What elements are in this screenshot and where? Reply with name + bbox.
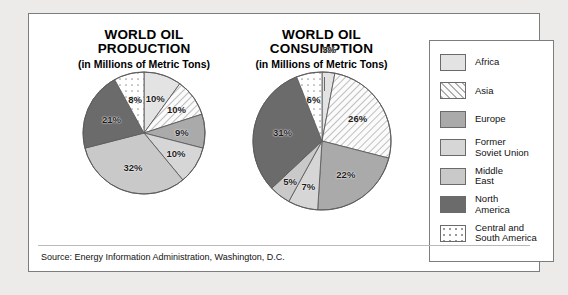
- legend-item-middle-east[interactable]: Middle East: [440, 162, 553, 191]
- consumption-subtitle: (in Millions of Metric Tons): [229, 58, 414, 71]
- legend-swatch-icon: [440, 168, 466, 185]
- consumption-slice-label-asia: 26%: [348, 113, 367, 124]
- legend-item-label: Central and South America: [475, 223, 537, 244]
- legend-item-north-america[interactable]: North America: [440, 191, 553, 220]
- production-pie: 10%10%9%10%32%21%8%: [82, 71, 206, 195]
- legend-item-former-soviet-union[interactable]: Former Soviet Union: [440, 134, 553, 163]
- consumption-chart-block: WORLD OIL CONSUMPTION (in Millions of Me…: [229, 28, 414, 211]
- figure-panel: WORLD OIL PRODUCTION (in Millions of Met…: [28, 13, 540, 272]
- source-note: Source: Energy Information Administratio…: [41, 252, 285, 262]
- leader-line: [324, 77, 325, 91]
- legend-swatch-icon: [440, 225, 466, 242]
- production-slice-label-europe: 9%: [175, 126, 189, 137]
- consumption-slice-label-central-and-south-america: 6%: [307, 93, 321, 104]
- legend-item-label: Middle East: [475, 166, 503, 187]
- legend-item-europe[interactable]: Europe: [440, 105, 553, 134]
- legend: AfricaAsiaEuropeFormer Soviet UnionMiddl…: [429, 40, 554, 262]
- production-slice-label-middle-east: 32%: [124, 161, 143, 172]
- production-subtitle: (in Millions of Metric Tons): [49, 58, 239, 71]
- legend-item-label: Asia: [475, 86, 493, 97]
- consumption-slice-label-middle-east: 5%: [283, 176, 297, 187]
- consumption-title-line1: WORLD OIL: [229, 28, 414, 42]
- legend-swatch-icon: [440, 82, 466, 99]
- production-slice-label-africa: 10%: [146, 93, 165, 104]
- consumption-slice-label-europe: 22%: [336, 169, 355, 180]
- legend-swatch-icon: [440, 196, 466, 213]
- legend-swatch-icon: [440, 111, 466, 128]
- legend-item-label: Former Soviet Union: [475, 137, 529, 158]
- production-title-line1: WORLD OIL: [49, 28, 239, 42]
- legend-item-label: Africa: [475, 57, 499, 68]
- consumption-title-line2: CONSUMPTION: [229, 42, 414, 56]
- legend-item-asia[interactable]: Asia: [440, 77, 553, 106]
- consumption-pie: 3%26%22%7%5%31%6%: [252, 71, 392, 211]
- source-divider: [38, 245, 530, 246]
- production-slice-label-former-soviet-union: 10%: [166, 148, 185, 159]
- legend-item-africa[interactable]: Africa: [440, 48, 553, 77]
- legend-item-label: North America: [475, 194, 510, 215]
- production-chart-block: WORLD OIL PRODUCTION (in Millions of Met…: [49, 28, 239, 195]
- legend-swatch-icon: [440, 139, 466, 156]
- legend-item-central-and-south-america[interactable]: Central and South America: [440, 219, 553, 248]
- production-slice-label-north-america: 21%: [102, 113, 121, 124]
- production-title-line2: PRODUCTION: [49, 42, 239, 56]
- consumption-slice-label-former-soviet-union: 7%: [302, 181, 316, 192]
- production-slice-label-central-and-south-america: 8%: [128, 93, 142, 104]
- legend-item-label: Europe: [475, 114, 506, 125]
- legend-swatch-icon: [440, 54, 466, 71]
- consumption-slice-label-north-america: 31%: [273, 127, 292, 138]
- production-slice-label-asia: 10%: [167, 104, 186, 115]
- consumption-slice-label-africa: 3%: [323, 44, 337, 55]
